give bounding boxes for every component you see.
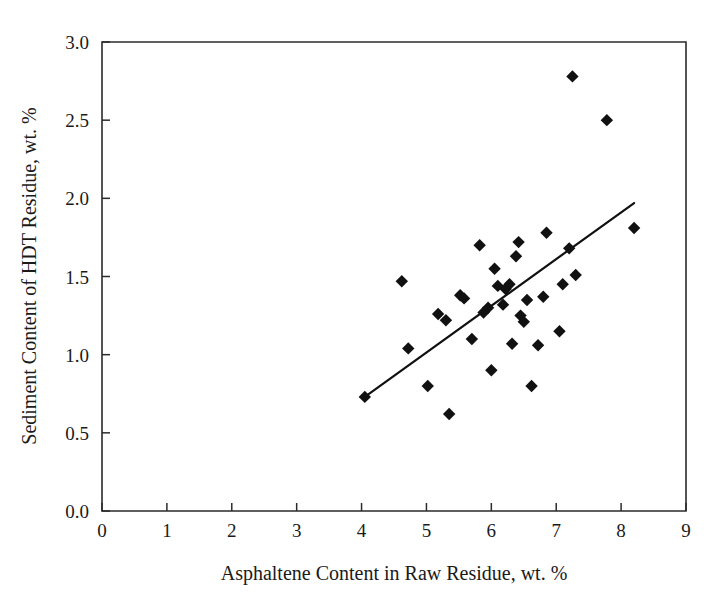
- x-tick-label: 4: [357, 520, 367, 541]
- chart-background: [0, 0, 722, 603]
- y-tick-label: 3.0: [65, 32, 89, 53]
- y-tick-label: 2.5: [65, 110, 89, 131]
- y-tick-label: 2.0: [65, 188, 89, 209]
- y-tick-label: 0.0: [65, 501, 89, 522]
- x-tick-label: 8: [616, 520, 626, 541]
- x-tick-label: 5: [422, 520, 432, 541]
- x-tick-label: 7: [551, 520, 561, 541]
- x-tick-label: 1: [162, 520, 172, 541]
- scatter-chart-figure: 0123456789 0.00.51.01.52.02.53.0 Asphalt…: [0, 0, 722, 603]
- y-tick-label: 1.5: [65, 267, 89, 288]
- y-tick-label: 1.0: [65, 345, 89, 366]
- x-tick-label: 0: [97, 520, 107, 541]
- x-tick-label: 3: [292, 520, 302, 541]
- y-tick-label: 0.5: [65, 423, 89, 444]
- y-axis-title: Sediment Content of HDT Residue, wt. %: [18, 107, 40, 444]
- x-axis-title: Asphaltene Content in Raw Residue, wt. %: [221, 562, 568, 585]
- x-tick-label: 9: [681, 520, 691, 541]
- x-tick-label: 6: [487, 520, 497, 541]
- x-tick-label: 2: [227, 520, 237, 541]
